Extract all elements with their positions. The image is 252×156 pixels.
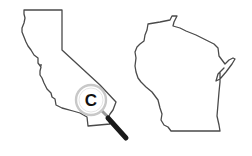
magnifying-glass-icon: C [76, 85, 126, 138]
illustration-canvas: C [0, 0, 252, 156]
magnifier-handle [108, 118, 126, 138]
wisconsin-outline-icon [135, 16, 235, 131]
states-illustration: C [0, 0, 252, 156]
magnifier-letter: C [85, 91, 97, 110]
california-dot-icon [40, 64, 42, 66]
